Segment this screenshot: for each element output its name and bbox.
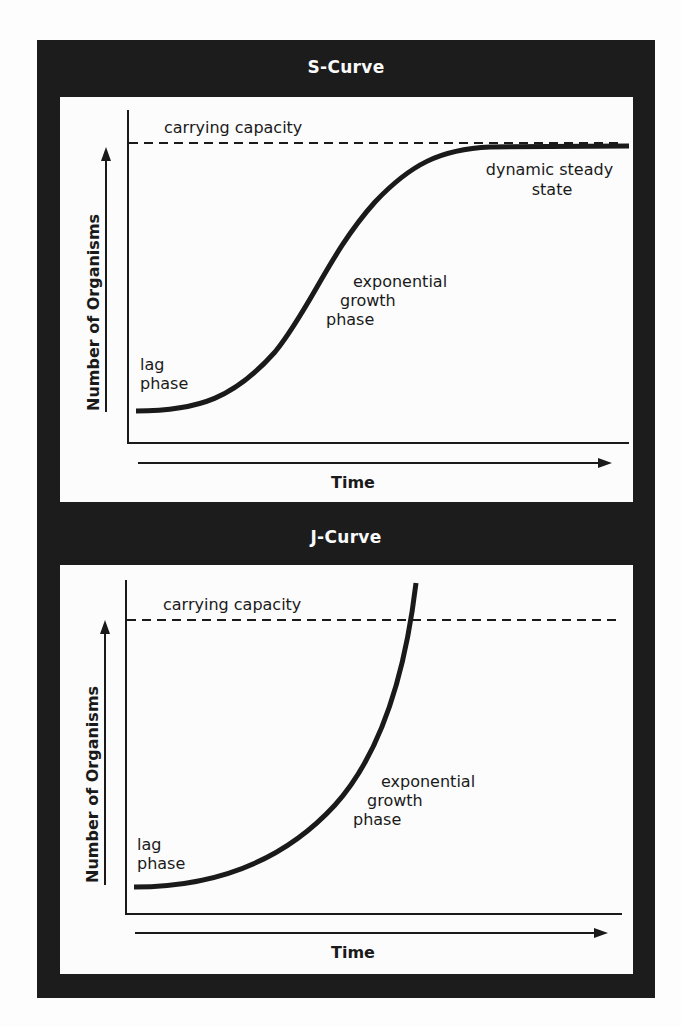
s-curve-panel: carrying capacity Number of Organisms Ti… — [60, 97, 633, 502]
x-axis-label: Time — [331, 473, 375, 492]
carrying-capacity-label: carrying capacity — [163, 595, 301, 614]
right-arrow-icon — [594, 928, 608, 938]
up-arrow-icon — [100, 620, 110, 634]
j-curve-title: J-Curve — [37, 527, 655, 547]
exponential-phase-label: exponential growth phase — [353, 772, 480, 829]
y-axis-label: Number of Organisms — [84, 214, 103, 411]
figure-frame: S-Curve carrying capacity Number of Orga… — [37, 40, 655, 998]
up-arrow-icon — [101, 147, 111, 161]
j-curve-chart: carrying capacity Number of Organisms Ti… — [60, 565, 633, 974]
lag-phase-label: lag phase — [140, 355, 188, 393]
right-arrow-icon — [598, 458, 612, 468]
lag-phase-label: lag phase — [137, 835, 185, 873]
steady-state-label: dynamic steady state — [486, 160, 618, 199]
exponential-phase-label: exponential growth phase — [326, 272, 452, 329]
y-axis-label: Number of Organisms — [83, 686, 102, 883]
s-curve-chart: carrying capacity Number of Organisms Ti… — [60, 97, 633, 502]
j-curve-line — [134, 583, 416, 887]
j-curve-panel: carrying capacity Number of Organisms Ti… — [60, 565, 633, 974]
x-axis-label: Time — [331, 943, 375, 962]
carrying-capacity-label: carrying capacity — [164, 118, 302, 137]
s-curve-title: S-Curve — [37, 57, 655, 77]
